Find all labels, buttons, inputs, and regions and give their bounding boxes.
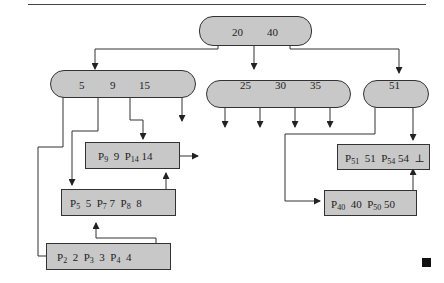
- internal-node-middle: 25 30 35: [206, 80, 351, 108]
- leaf-node-40-50: P40 40 P50 50: [324, 190, 417, 216]
- leaf-entries: P9 9 P14 14: [98, 150, 153, 166]
- leaf-entries: P51 51 P54 54 ⊥: [345, 152, 425, 168]
- internal-key: 25: [240, 79, 251, 91]
- root-node: 20 40: [199, 16, 312, 46]
- internal-key: 35: [310, 79, 321, 91]
- internal-node-left: 5 9 15: [50, 70, 196, 98]
- internal-key: 30: [275, 79, 286, 91]
- null-pointer-icon: ⊥: [415, 152, 425, 164]
- leaf-node-5-7-8: P5 5 P7 7 P8 8: [61, 189, 176, 216]
- root-key-1: 20: [232, 26, 243, 38]
- leaf-node-2-3-4: P2 2 P3 3 P4 4: [46, 243, 171, 270]
- internal-node-right: 51: [363, 80, 429, 108]
- internal-key: 15: [139, 79, 150, 91]
- internal-key: 5: [79, 79, 85, 91]
- leaf-node-9-14: P9 9 P14 14: [85, 142, 180, 169]
- leaf-entries: P2 2 P3 3 P4 4: [57, 251, 131, 267]
- leaf-entries: P5 5 P7 7 P8 8: [70, 197, 142, 213]
- internal-key: 51: [389, 79, 400, 91]
- root-key-2: 40: [267, 26, 278, 38]
- internal-key: 9: [110, 79, 116, 91]
- leaf-entries: P40 40 P50 50: [331, 198, 395, 214]
- leaf-node-51-54: P51 51 P54 54 ⊥: [337, 144, 430, 170]
- end-of-proof-square-icon: [422, 258, 431, 267]
